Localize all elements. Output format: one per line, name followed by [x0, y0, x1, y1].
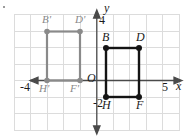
preimage-rectangle	[106, 48, 139, 97]
vertex-label-D: D	[136, 31, 145, 43]
vertex-D-dot	[136, 45, 142, 51]
tick-label-y-4: 4	[99, 14, 105, 26]
preimage-rectangle-vertices	[103, 45, 142, 100]
vertex-label-H-prime: H'	[39, 83, 49, 94]
vertex-D-prime-dot	[77, 29, 83, 35]
vertex-B-dot	[103, 45, 109, 51]
vertex-label-F-prime: F'	[70, 83, 79, 94]
x-axis-arrow-left	[30, 77, 38, 84]
vertex-label-D-prime: D'	[75, 14, 85, 25]
tick-label-x-5: 5	[162, 81, 168, 93]
y-axis-arrow-down	[94, 126, 100, 134]
vertex-label-H: H	[102, 99, 111, 111]
vertex-B-prime-dot	[44, 29, 50, 35]
vertex-label-F: F	[136, 99, 143, 111]
coordinate-plane-svg	[0, 0, 189, 138]
vertex-label-B-prime: B'	[42, 14, 51, 25]
origin-label: O	[87, 72, 96, 84]
vertex-label-B: B	[102, 31, 109, 43]
tick-label-x-neg4: -4	[20, 81, 30, 93]
figure-canvas: y x O 4 -2 -4 5 B D F H B' D' F' H'	[0, 0, 189, 138]
x-axis-label: x	[176, 80, 181, 92]
